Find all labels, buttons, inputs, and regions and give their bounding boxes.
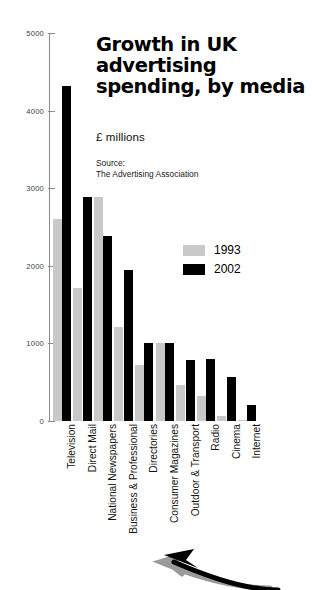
- bar-group: [238, 33, 259, 421]
- bar: [186, 360, 195, 421]
- bar: [73, 288, 82, 421]
- bar: [53, 219, 62, 421]
- x-axis-label: National Newspapers: [108, 424, 118, 521]
- bar-group: [176, 33, 197, 421]
- bar: [156, 343, 165, 421]
- y-tick-label: 4000: [26, 106, 44, 115]
- bar: [227, 377, 236, 421]
- bar: [62, 86, 71, 421]
- bar: [206, 359, 215, 421]
- x-axis-label: Cinema: [232, 424, 242, 459]
- bar: [83, 197, 92, 421]
- x-axis-label: Consumer Magazines: [170, 424, 180, 523]
- curved-arrow-icon: [120, 548, 312, 590]
- y-tick-label: 3000: [26, 184, 44, 193]
- y-tick-label: 5000: [26, 29, 44, 38]
- bar-group: [53, 33, 74, 421]
- x-axis-label: Business & Professional: [129, 424, 139, 534]
- x-axis-label: Directories: [149, 424, 159, 473]
- bar: [165, 343, 174, 421]
- x-axis-label: Television: [67, 424, 77, 469]
- bar-group: [114, 33, 135, 421]
- bar-group: [217, 33, 238, 421]
- x-axis-label: Internet: [252, 424, 262, 459]
- bar: [124, 270, 133, 421]
- bar-group: [73, 33, 94, 421]
- bar-group: [135, 33, 156, 421]
- chart-page: Growth in UK advertising spending, by me…: [0, 0, 312, 590]
- bar-group: [94, 33, 115, 421]
- bar: [247, 405, 256, 421]
- bars-layer: [49, 33, 308, 421]
- bar: [176, 385, 185, 421]
- bar-group: [197, 33, 218, 421]
- x-axis-label: Outdoor & Transport: [191, 424, 201, 516]
- bar: [144, 343, 153, 421]
- x-axis-label: Radio: [211, 424, 221, 451]
- bar-group: [156, 33, 177, 421]
- bar: [135, 365, 144, 421]
- x-axis-labels: TelevisionDirect MailNational Newspapers…: [49, 424, 308, 534]
- y-tick-label: 0: [40, 417, 44, 426]
- y-tick-label: 1000: [26, 339, 44, 348]
- bar: [197, 396, 206, 421]
- bar: [114, 327, 123, 421]
- x-axis-label: Direct Mail: [88, 424, 98, 472]
- bar: [238, 420, 247, 421]
- bar: [94, 197, 103, 421]
- y-tick-mark: [48, 421, 55, 422]
- y-tick-label: 2000: [26, 261, 44, 270]
- plot-area: 010002000300040005000: [49, 33, 308, 421]
- bar: [103, 236, 112, 421]
- bar: [217, 416, 226, 421]
